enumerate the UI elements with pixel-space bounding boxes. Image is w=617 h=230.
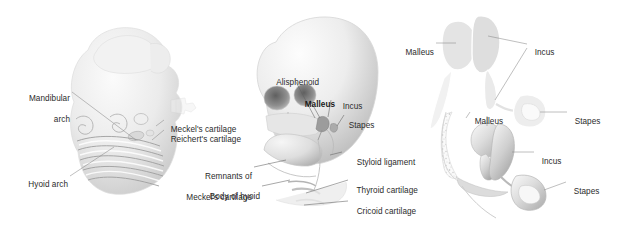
skull-maxilla — [266, 113, 321, 136]
label-3d-incus-text: Incus — [542, 157, 562, 166]
label-schematic-incus-text: Incus — [535, 48, 555, 57]
label-alisphenoid-text: Alisphenoid — [276, 78, 319, 87]
label-thyroid-cartilage: Thyroid cartilage — [352, 176, 418, 196]
label-schematic-stapes-text: Stapes — [575, 117, 601, 126]
label-skull-malleus-text: Malleus — [305, 100, 335, 109]
skull-hyoid-body — [288, 181, 316, 186]
label-hyoid-arch-text: Hyoid arch — [28, 180, 68, 189]
label-styloid-ligament-text: Styloid ligament — [357, 158, 416, 167]
label-hyoid-arch: Hyoid arch — [4, 170, 68, 190]
label-mandibular-arch-line1: Mandibular — [29, 94, 70, 103]
label-skull-malleus: Malleus — [300, 90, 335, 110]
label-skull-incus: Incus — [338, 92, 362, 112]
embryo-otic-vesicle — [134, 114, 148, 125]
tympanic-ring-3d — [457, 178, 508, 197]
anatomical-figure — [0, 0, 617, 230]
label-3d-stapes: Stapes — [569, 177, 599, 197]
leader-schematic-incus-process — [495, 48, 527, 100]
label-skull-incus-text: Incus — [343, 102, 363, 111]
schematic-incus-long-process — [485, 70, 497, 109]
label-alisphenoid: Alisphenoid — [272, 68, 319, 88]
skull-orbit-left — [264, 86, 290, 110]
label-skull-stapes: Stapes — [344, 111, 374, 131]
label-thyroid-cartilage-text: Thyroid cartilage — [357, 186, 418, 195]
label-cricoid-cartilage: Cricoid cartilage — [352, 197, 416, 217]
embryo-maxillary-bulge — [150, 43, 170, 73]
cartilage-fragment-sketch — [171, 98, 196, 114]
label-remnants-line1: Remnants of — [205, 172, 252, 181]
label-3d-malleus: Malleus — [470, 107, 503, 127]
label-schematic-malleus-text: Malleus — [405, 48, 434, 57]
label-3d-stapes-text: Stapes — [574, 187, 600, 196]
schematic-malleus-head — [442, 21, 476, 70]
label-body-of-hyoid: Body of hyoid — [188, 182, 260, 202]
label-reicherts-cartilage-text: Reichert's cartilage — [171, 135, 241, 144]
label-mandibular-arch: Mandibular arch — [4, 84, 70, 125]
label-body-of-hyoid-text: Body of hyoid — [210, 192, 260, 201]
label-schematic-stapes: Stapes — [570, 107, 600, 127]
label-styloid-ligament: Styloid ligament — [352, 148, 415, 168]
label-3d-incus: Incus — [537, 147, 561, 167]
label-reicherts-cartilage: Reichert's cartilage — [166, 125, 241, 145]
leader-remnants-meckels — [254, 160, 286, 167]
label-3d-malleus-text: Malleus — [475, 117, 504, 126]
label-cricoid-cartilage-text: Cricoid cartilage — [357, 207, 417, 216]
label-mandibular-arch-line2: arch — [54, 115, 70, 124]
label-skull-stapes-text: Stapes — [349, 121, 375, 130]
skull-malleus-incus — [316, 116, 329, 131]
leader-3d-stapes — [544, 182, 566, 190]
leader-body-of-hyoid — [262, 180, 290, 186]
label-schematic-incus: Incus — [530, 38, 554, 58]
embryo-nasal-pit — [146, 130, 154, 136]
label-schematic-malleus: Malleus — [396, 38, 434, 58]
schematic-incus-body — [472, 16, 500, 73]
skull-stapes — [330, 123, 338, 132]
